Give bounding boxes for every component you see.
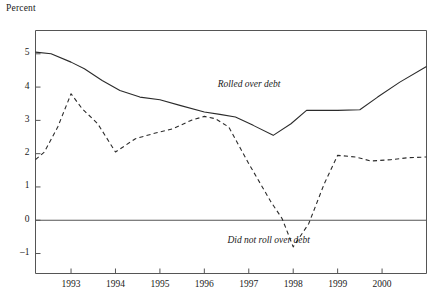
y-tick-label: 2 (8, 147, 30, 157)
x-tick-label: 1995 (140, 279, 180, 289)
chart-figure: Percent –1012345 19931994199519961997199… (0, 0, 437, 304)
x-tick-label: 1998 (273, 279, 313, 289)
y-tick-label: –1 (8, 247, 30, 257)
y-tick-label: 4 (8, 81, 30, 91)
x-tick-label: 1993 (51, 279, 91, 289)
x-tick-label: 1994 (95, 279, 135, 289)
x-tick-label: 1999 (318, 279, 358, 289)
line-chart-plot (0, 0, 437, 304)
y-tick-label: 1 (8, 180, 30, 190)
series-label-rolled-over-debt: Rolled over debt (218, 79, 281, 89)
x-tick-label: 1997 (229, 279, 269, 289)
x-tick-label: 1996 (184, 279, 224, 289)
series-line-rolled-over-debt (36, 52, 427, 135)
x-tick-label: 2000 (362, 279, 402, 289)
y-tick-label: 5 (8, 47, 30, 57)
y-tick-label: 3 (8, 114, 30, 124)
series-label-did-not-roll-over-debt: Did not roll over debt (227, 235, 310, 245)
y-tick-label: 0 (8, 214, 30, 224)
